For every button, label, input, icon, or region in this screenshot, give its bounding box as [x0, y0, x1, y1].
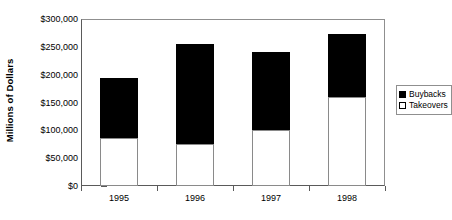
legend-swatch-buybacks-icon: [399, 91, 406, 98]
legend-item-buybacks: Buybacks: [399, 89, 448, 100]
bar-segment-buybacks: [176, 44, 214, 145]
y-axis-title-text: Millions of Dollars: [5, 58, 16, 142]
x-axis-tick-label: 1995: [109, 193, 129, 204]
x-axis-tick-mark: [385, 186, 386, 191]
bar-group: [100, 19, 138, 186]
y-axis-tick-labels: $0$50,000$100,000$150,000$200,000$250,00…: [26, 0, 78, 200]
x-axis-tick-label: 1997: [261, 193, 281, 204]
y-axis-tick-label: $200,000: [26, 70, 78, 79]
legend-label-takeovers: Takeovers: [409, 101, 448, 110]
x-axis-tick-mark: [157, 186, 158, 191]
bar-group: [328, 19, 366, 186]
chart-legend: Buybacks Takeovers: [396, 85, 452, 115]
bar-segment-takeovers: [176, 144, 214, 186]
bar-segment-buybacks: [328, 34, 366, 97]
y-axis-tick-label: $300,000: [26, 15, 78, 24]
bars-layer: [81, 19, 385, 186]
bar-1998: [328, 34, 366, 186]
bar-1995: [100, 78, 138, 186]
bar-1996: [176, 44, 214, 187]
x-axis-tick-mark: [81, 186, 82, 191]
bar-group: [252, 19, 290, 186]
legend-label-buybacks: Buybacks: [409, 90, 446, 99]
y-axis-tick-label: $250,000: [26, 42, 78, 51]
x-axis-tick-labels: 1995199619971998: [81, 193, 385, 207]
x-axis-tick-label: 1998: [337, 193, 357, 204]
y-axis-tick-label: $150,000: [26, 98, 78, 107]
x-axis-tick-label: 1996: [185, 193, 205, 204]
y-axis-tick-label: $100,000: [26, 126, 78, 135]
bar-segment-buybacks: [100, 78, 138, 138]
bar-segment-takeovers: [100, 138, 138, 186]
bar-group: [176, 19, 214, 186]
y-axis-tick-label: $50,000: [26, 154, 78, 163]
x-axis-tick-mark: [309, 186, 310, 191]
y-axis-title: Millions of Dollars: [0, 0, 20, 200]
bar-segment-buybacks: [252, 52, 290, 130]
legend-swatch-takeovers-icon: [399, 102, 406, 109]
bar-segment-takeovers: [328, 97, 366, 186]
bar-segment-takeovers: [252, 130, 290, 186]
bar-1997: [252, 52, 290, 186]
y-axis-tick-label: $0: [26, 182, 78, 191]
x-axis-tick-mark: [233, 186, 234, 191]
legend-item-takeovers: Takeovers: [399, 100, 448, 111]
